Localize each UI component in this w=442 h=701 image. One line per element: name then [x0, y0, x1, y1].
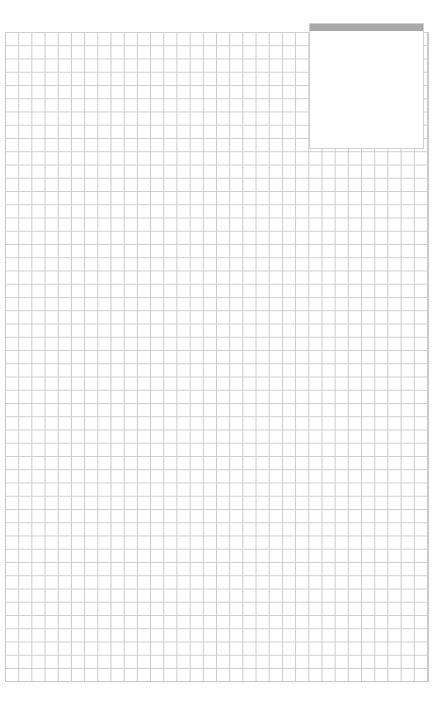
title-label-box: [309, 23, 424, 149]
label-box-text: [314, 34, 419, 144]
label-box-header-bar: [310, 24, 423, 31]
graph-paper-page: [0, 0, 442, 701]
